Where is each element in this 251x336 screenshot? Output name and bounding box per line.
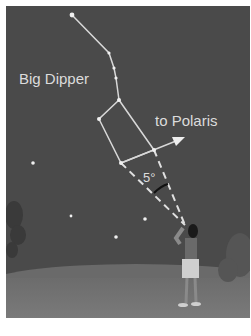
- angle-label: 5°: [143, 170, 155, 185]
- observer-person-icon: [176, 224, 201, 307]
- sight-lines: [121, 150, 185, 225]
- to-polaris-label: to Polaris: [155, 112, 218, 129]
- angle-arc: [154, 184, 168, 193]
- tree-left-icon: [6, 201, 26, 258]
- constellation-lines: [72, 15, 176, 163]
- illustration-frame: Big Dipper to Polaris 5°: [6, 6, 250, 318]
- tree-right-icon: [218, 233, 250, 282]
- big-dipper-diagram: [6, 6, 250, 318]
- big-dipper-label: Big Dipper: [19, 70, 89, 87]
